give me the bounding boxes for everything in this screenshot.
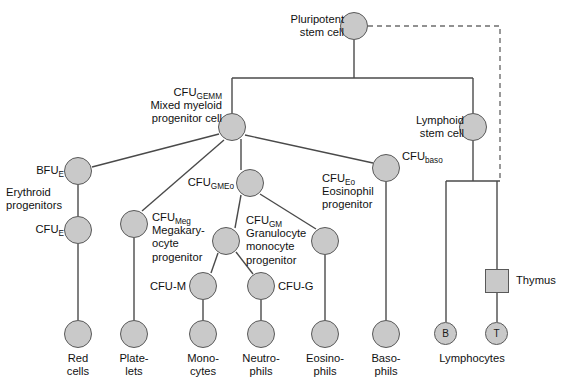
label-red-cells: Red cells (50, 352, 106, 378)
node-red-cells[interactable] (64, 320, 92, 348)
node-platelets[interactable] (120, 320, 148, 348)
label-cfu-m: CFU-M (136, 280, 186, 293)
node-eosinophils[interactable] (311, 320, 339, 348)
node-b-lymphocyte[interactable]: B (434, 322, 457, 345)
label-basophils: Baso- phils (358, 352, 414, 378)
node-cfu-eo[interactable] (311, 227, 339, 255)
label-cfu-baso: CFUbaso (402, 150, 472, 163)
label-pluripotent-stem-cell: Pluripotent stem cell (252, 13, 344, 39)
label-eosinophils: Eosino- phils (293, 352, 357, 378)
label-thymus: Thymus (516, 274, 568, 287)
label-cfu-gmeo: CFUGMEo (148, 176, 234, 189)
node-neutrophils[interactable] (247, 320, 275, 348)
node-cfu-m[interactable] (189, 272, 217, 300)
label-cfu-g: CFU-G (278, 280, 334, 293)
b-cell-letter: B (435, 329, 456, 339)
label-monocytes: Mono- cytes (173, 352, 233, 378)
node-cfu-gm[interactable] (212, 227, 240, 255)
label-lymphoid-stem-cell: Lymphoid stem cell (398, 114, 464, 140)
edge-cfugemm-cfubaso (245, 135, 373, 163)
node-cfu-baso[interactable] (372, 154, 400, 182)
node-pluripotent-stem-cell[interactable] (340, 12, 368, 40)
label-bfu-e: BFUE (8, 164, 64, 177)
node-bfu-e[interactable] (64, 157, 92, 185)
edge-cfugemm-bfue (92, 134, 219, 167)
label-neutrophils: Neutro- phils (229, 352, 293, 378)
node-thymus[interactable] (485, 269, 509, 293)
edge-cfugmeo-cfugm (235, 195, 241, 228)
label-erythroid-progenitors: Erythroid progenitors (6, 186, 86, 212)
node-t-lymphocyte[interactable]: T (485, 322, 508, 345)
label-lymphocytes: Lymphocytes (433, 352, 511, 365)
node-monocytes[interactable] (189, 320, 217, 348)
label-cfu-gemm: CFUGEMMMixed myeloidprogenitor cell (112, 86, 222, 126)
hematopoiesis-diagram: Pluripotent stem cell CFUGEMMMixed myelo… (0, 0, 572, 384)
node-cfu-e[interactable] (64, 216, 92, 244)
node-cfu-g[interactable] (247, 272, 275, 300)
node-cfu-gemm[interactable] (218, 113, 246, 141)
t-cell-letter: T (486, 329, 507, 339)
label-cfu-e: CFUE (8, 223, 64, 236)
label-platelets: Plate- lets (106, 352, 162, 378)
node-basophils[interactable] (372, 320, 400, 348)
node-cfu-gmeo[interactable] (236, 169, 264, 197)
node-cfu-meg[interactable] (120, 210, 148, 238)
